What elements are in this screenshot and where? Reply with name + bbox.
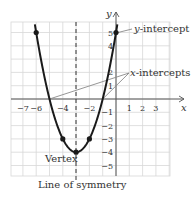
data-point: [113, 30, 118, 35]
symmetry-annotation: Line of symmetry: [38, 179, 127, 190]
x-tick-label: 1: [127, 104, 132, 113]
data-point: [34, 30, 39, 35]
y-tick-label: 5: [108, 29, 113, 38]
x-tick-label: 2: [140, 104, 145, 113]
x-tick-label: 3: [153, 104, 158, 113]
y-tick-label: −2: [101, 122, 113, 131]
annotation-pointers: [50, 29, 133, 99]
y-tick-label: −4: [101, 148, 113, 157]
x-axis-label: x: [181, 102, 187, 113]
y-intercept-pointer: [118, 29, 132, 33]
y-axis-label: y: [105, 8, 112, 19]
y-intercept-annotation: y-intercept: [133, 23, 189, 34]
y-tick-label: −5: [101, 162, 113, 171]
y-tick-label: −3: [101, 135, 113, 144]
data-point: [60, 136, 65, 141]
data-point: [87, 136, 92, 141]
x-tick-label: −6: [30, 104, 42, 113]
y-tick-label: −1: [101, 108, 113, 117]
x-tick-label: −4: [57, 104, 69, 113]
x-tick-label: −7: [17, 104, 29, 113]
x-tick-label: −2: [84, 104, 96, 113]
vertex-annotation: Vertex: [44, 153, 78, 164]
x-intercepts-annotation: x-intercepts: [130, 67, 190, 78]
parabola-chart: x y −7−6−4−21235421−1−2−3−4−5 y-intercep…: [0, 0, 195, 202]
